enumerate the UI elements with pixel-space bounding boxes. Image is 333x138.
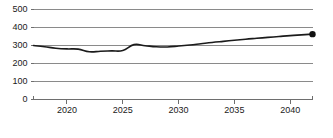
x-axis-tick-label: 2035	[224, 105, 244, 115]
y-axis-tick-label: 300	[12, 40, 27, 50]
series-line	[34, 34, 313, 52]
series-endpoint-dot	[309, 31, 315, 37]
chart-plot-area: 0100200300400500 20202025203020352040	[0, 0, 333, 138]
x-axis-tick-labels: 20202025203020352040	[57, 105, 300, 115]
y-axis-tick-label: 100	[12, 76, 27, 86]
endpoint-marker	[309, 31, 315, 37]
y-axis-tick-label: 400	[12, 22, 27, 32]
gridlines	[31, 10, 313, 100]
x-axis-tick-label: 2025	[113, 105, 133, 115]
x-axis-tick-label: 2030	[169, 105, 189, 115]
y-axis-tick-label: 500	[12, 4, 27, 14]
x-axis-tick-label: 2020	[57, 105, 77, 115]
y-axis-tick-labels: 0100200300400500	[12, 4, 27, 104]
y-axis-tick-label: 200	[12, 58, 27, 68]
x-axis-tick-label: 2040	[280, 105, 300, 115]
x-axis	[34, 96, 313, 104]
line-chart: 0100200300400500 20202025203020352040	[0, 0, 333, 138]
data-series	[34, 34, 313, 52]
y-axis-tick-label: 0	[22, 94, 27, 104]
